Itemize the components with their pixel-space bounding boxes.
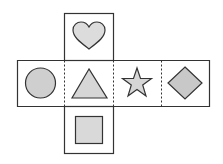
triangle-icon [72,69,107,98]
star-icon [123,68,152,96]
heart-icon [73,22,105,49]
circle-icon [26,68,56,98]
diamond-icon [168,67,202,99]
square-icon [76,117,103,144]
fold-lines [65,61,162,107]
cube-net-diagram [0,0,223,164]
